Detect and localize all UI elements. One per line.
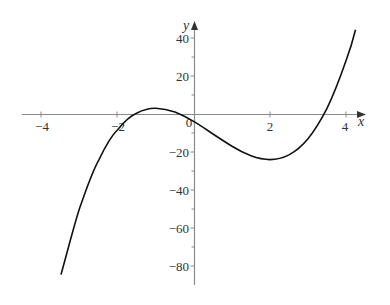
y-tick-label: 40 [176, 31, 189, 46]
y-axis: 40 20 −20 −40 −60 −80 y [169, 18, 198, 285]
y-tick-label: −60 [169, 221, 189, 236]
cubic-function-chart: −4 −2 2 4 x 40 20 −20 −40 −60 −80 y 0 [0, 0, 390, 305]
y-axis-arrow-icon [191, 21, 198, 30]
y-tick-label: −40 [169, 183, 189, 198]
y-tick-label: 20 [176, 69, 189, 84]
cubic-curve [61, 30, 356, 275]
x-tick-label: 2 [267, 119, 274, 134]
y-tick-label: −20 [169, 145, 189, 160]
x-axis-label: x [357, 114, 365, 129]
x-tick-label: 4 [342, 119, 349, 134]
x-tick-label: −2 [111, 119, 125, 134]
y-axis-label: y [181, 18, 190, 33]
y-tick-label: −80 [169, 259, 189, 274]
x-tick-label: −4 [35, 119, 49, 134]
